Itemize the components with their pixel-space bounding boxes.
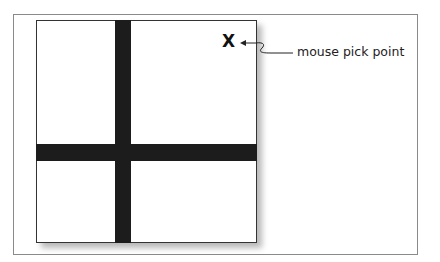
callout-label: mouse pick point (297, 44, 404, 60)
callout-arrow-icon (0, 0, 440, 262)
